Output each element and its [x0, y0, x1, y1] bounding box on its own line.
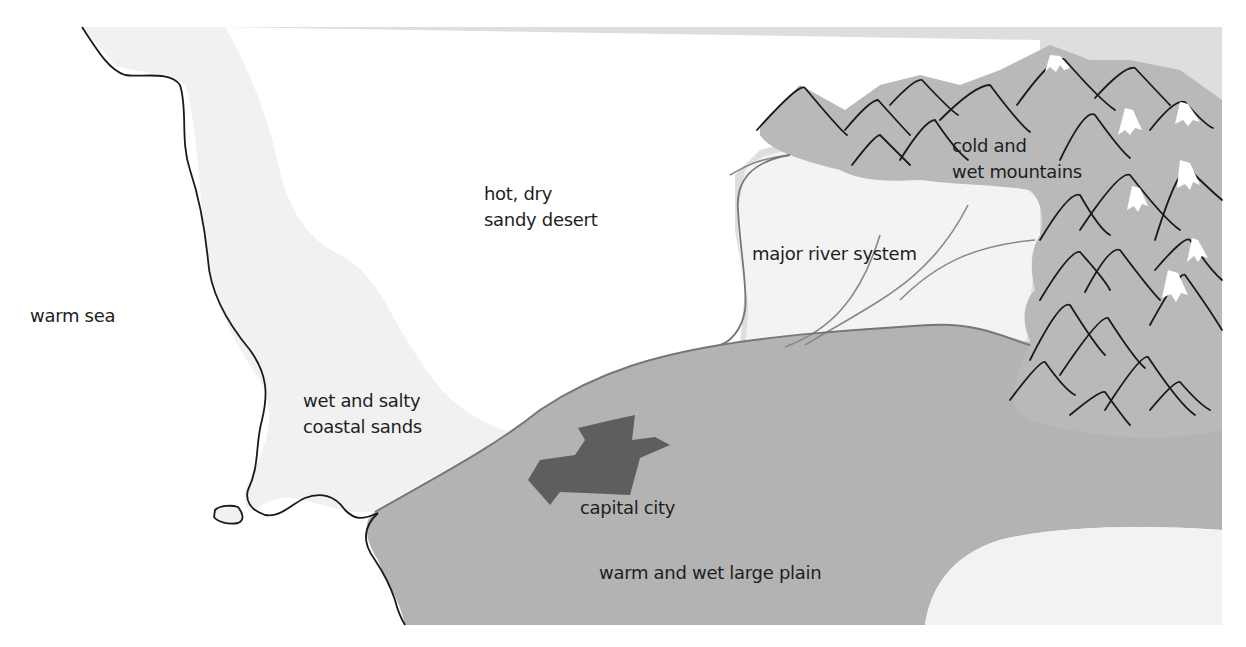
label-river-system: major river system [752, 241, 917, 267]
coastal-sands-region [82, 27, 510, 513]
terrain-map [0, 0, 1246, 647]
label-large-plain: warm and wet large plain [599, 560, 821, 586]
label-mountains: cold and wet mountains [952, 133, 1082, 185]
label-warm-sea: warm sea [30, 303, 115, 329]
island [214, 506, 243, 524]
label-desert: hot, dry sandy desert [484, 181, 597, 233]
label-capital-city: capital city [580, 495, 675, 521]
label-coastal-sands: wet and salty coastal sands [303, 388, 422, 440]
